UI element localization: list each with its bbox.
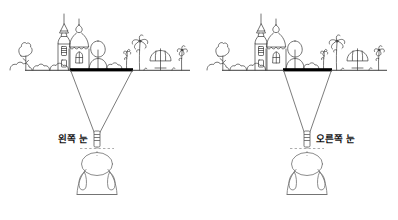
left-eye-panel: 왼쪽 눈 (10, 14, 190, 195)
observer-figure-left (77, 153, 117, 195)
sight-cone-left (71, 70, 133, 133)
townscape-left (10, 14, 187, 70)
townscape-right (207, 14, 384, 70)
sight-cone-right (284, 70, 332, 133)
right-eye-label: 오른쪽 눈 (316, 133, 355, 144)
left-eye-label: 왼쪽 눈 (58, 133, 88, 144)
view-window-bar-right (283, 68, 332, 71)
right-eye-panel: 오른쪽 눈 (207, 14, 387, 195)
stereoscopic-vision-diagram: 왼쪽 눈 오른쪽 눈 (0, 0, 398, 220)
observer-figure-right (287, 153, 327, 195)
view-window-bar-left (70, 68, 133, 71)
right-eye-icon (304, 131, 310, 147)
left-eye-icon (94, 131, 100, 147)
